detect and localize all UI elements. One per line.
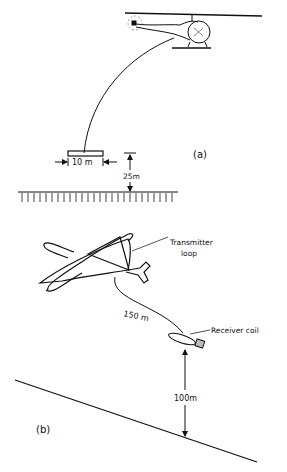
tow-cable [84, 38, 174, 153]
transmitter-label-line2: loop [181, 249, 197, 258]
helicopter-icon [125, 13, 262, 48]
receiver-coil-icon [167, 331, 204, 348]
cable-length-label: 150 m [123, 309, 150, 323]
airplane-icon [40, 234, 150, 291]
transmitter-label-line1: Transmitter [169, 238, 214, 247]
tow-cable-b [115, 277, 183, 333]
loop-height-label: 25m [123, 172, 140, 181]
diagram-canvas: 10 m 25m (a) [0, 0, 287, 472]
panel-b-label: (b) [36, 424, 50, 435]
receiver-label: Receiver coil [211, 326, 259, 335]
loop-width-label: 10 m [72, 158, 93, 167]
panel-b [15, 234, 257, 462]
receiver-height-label: 100m [174, 394, 197, 403]
ground-hatching [22, 193, 172, 202]
loop-rectangle [68, 151, 103, 156]
terrain-slope [15, 380, 257, 462]
panel-a-label: (a) [193, 149, 207, 160]
panel-a [18, 13, 262, 202]
